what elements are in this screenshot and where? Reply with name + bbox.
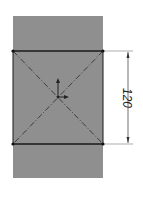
sketch-canvas: 120	[0, 0, 143, 199]
dimension-label: 120	[120, 88, 134, 108]
sketch-point[interactable]	[11, 142, 14, 145]
dimension-120[interactable]: 120	[104, 51, 134, 144]
sketch-point[interactable]	[11, 49, 14, 52]
